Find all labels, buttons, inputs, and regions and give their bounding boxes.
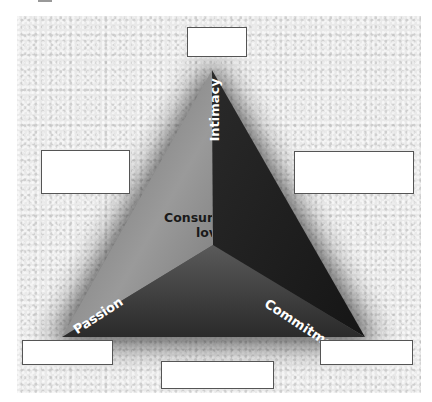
center-label-line1: Consummate xyxy=(164,210,212,225)
blank-box-right[interactable] xyxy=(294,151,414,194)
center-label-line2: love xyxy=(164,225,212,240)
label-intimacy: Intimacy xyxy=(207,82,222,142)
center-label: Consummate love xyxy=(164,210,212,240)
blank-box-top[interactable] xyxy=(187,27,247,57)
blank-box-bottom-center[interactable] xyxy=(161,361,274,389)
blank-box-bottom-right[interactable] xyxy=(320,340,413,365)
blank-box-left[interactable] xyxy=(41,150,130,194)
blank-box-bottom-left[interactable] xyxy=(22,340,113,365)
